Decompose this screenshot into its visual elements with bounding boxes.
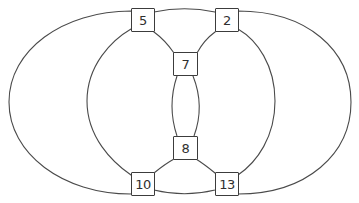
crossing-2: 2 [215,8,239,32]
crossing-label: 2 [223,14,231,27]
curve-middle-loop [87,9,275,194]
diagram-curves [0,0,359,203]
crossing-label: 5 [139,14,147,27]
crossing-5: 5 [131,8,155,32]
crossing-label: 10 [135,178,151,191]
curve-left-loop [9,11,199,194]
crossing-label: 13 [219,178,235,191]
crossing-label: 7 [182,58,190,71]
crossing-7: 7 [173,52,198,76]
crossing-8: 8 [173,136,198,160]
crossing-13: 13 [215,172,239,196]
crossing-label: 8 [182,142,190,155]
crossing-10: 10 [131,172,155,196]
link-diagram: 5 2 7 8 10 13 [0,0,359,203]
